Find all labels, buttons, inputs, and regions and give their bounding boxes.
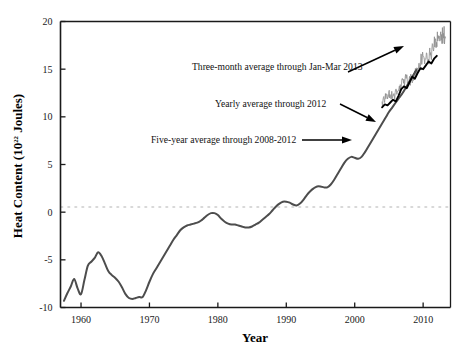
x-tick-label: 1970	[139, 314, 159, 325]
annotation-label-3: Five-year average through 2008-2012	[151, 134, 296, 145]
y-tick-label: 0	[48, 207, 53, 218]
x-axis-title: Year	[242, 330, 268, 345]
y-axis-title-base: Heat Content (10	[10, 143, 25, 238]
y-axis-title-tail: Joules)	[10, 94, 25, 136]
x-tick-label: 2010	[413, 314, 433, 325]
annotation-label-2: Yearly average through 2012	[215, 98, 326, 109]
y-tick-label: 15	[43, 64, 53, 75]
x-tick-label: 1990	[276, 314, 296, 325]
annotation-label-1: Three-month average through Jan-Mar 2013	[192, 61, 363, 72]
y-tick-label: 20	[43, 16, 53, 27]
ocean-heat-content-chart: -10-505101520 196019701980199020002010 T…	[0, 0, 473, 358]
x-tick-label: 2000	[345, 314, 365, 325]
svg-text:Heat Content (1022 Joules): Heat Content (1022 Joules)	[10, 94, 25, 238]
chart-background	[0, 0, 473, 358]
x-tick-label: 1980	[208, 314, 228, 325]
x-tick-label: 1960	[71, 314, 91, 325]
y-tick-label: 5	[48, 159, 53, 170]
chart-figure: -10-505101520 196019701980199020002010 T…	[0, 0, 473, 358]
y-tick-label: 10	[43, 111, 53, 122]
y-axis-title: Heat Content (1022 Joules)	[10, 94, 25, 238]
y-tick-label: -5	[44, 254, 52, 265]
y-tick-label: -10	[39, 302, 52, 313]
